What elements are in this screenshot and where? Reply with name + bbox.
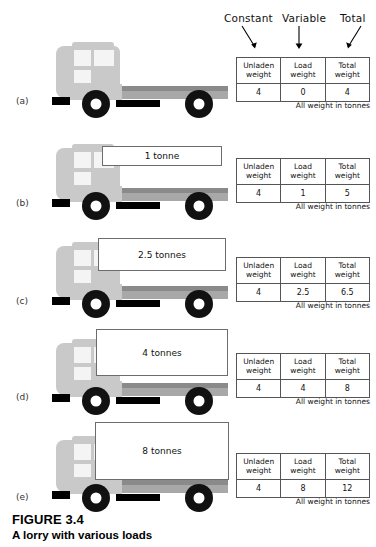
weights-table: Unladen weight Load weight Total weight … bbox=[236, 353, 370, 398]
header-load-line2: weight bbox=[290, 270, 315, 279]
load-label: 2.5 tonnes bbox=[138, 250, 186, 260]
annotation-variable: Variable bbox=[282, 12, 326, 24]
header-load-line2: weight bbox=[290, 466, 315, 475]
table-header-row: Unladen weight Load weight Total weight bbox=[237, 58, 370, 84]
table-row: 4 1 5 bbox=[237, 185, 370, 203]
load-label: 1 tonne bbox=[145, 151, 180, 161]
cell-unladen-weight: 4 bbox=[237, 480, 281, 498]
cell-unladen-weight: 4 bbox=[237, 284, 281, 302]
table-row: 4 2.5 6.5 bbox=[237, 284, 370, 302]
cell-total-weight: 6.5 bbox=[325, 284, 369, 302]
cell-unladen-weight: 4 bbox=[237, 84, 281, 102]
annotation-constant: Constant bbox=[224, 12, 273, 24]
table-header-row: Unladen weight Load weight Total weight bbox=[237, 354, 370, 380]
header-total-line2: weight bbox=[335, 70, 360, 79]
header-load-weight: Load weight bbox=[281, 454, 325, 480]
cell-total-weight: 8 bbox=[325, 380, 369, 398]
table-row: 4 0 4 bbox=[237, 84, 370, 102]
header-unladen-line2: weight bbox=[246, 171, 271, 180]
load-box: 1 tonne bbox=[102, 146, 222, 166]
row-label: (a) bbox=[16, 96, 29, 106]
table-header-row: Unladen weight Load weight Total weight bbox=[237, 159, 370, 185]
header-load-weight: Load weight bbox=[281, 159, 325, 185]
header-total-line2: weight bbox=[335, 171, 360, 180]
header-load-line2: weight bbox=[290, 171, 315, 180]
cell-load-weight: 0 bbox=[281, 84, 325, 102]
weights-table: Unladen weight Load weight Total weight … bbox=[236, 257, 370, 302]
row-label: (e) bbox=[16, 492, 29, 502]
cell-total-weight: 4 bbox=[325, 84, 369, 102]
header-total-line2: weight bbox=[335, 366, 360, 375]
cell-load-weight: 8 bbox=[281, 480, 325, 498]
cell-load-weight: 4 bbox=[281, 380, 325, 398]
header-total-weight: Total weight bbox=[325, 454, 369, 480]
annotation-total: Total bbox=[340, 12, 366, 24]
row-label: (d) bbox=[16, 392, 29, 402]
load-label: 8 tonnes bbox=[142, 446, 181, 456]
header-unladen-line2: weight bbox=[246, 466, 271, 475]
header-total-line2: weight bbox=[335, 270, 360, 279]
table-header-row: Unladen weight Load weight Total weight bbox=[237, 454, 370, 480]
table-note: All weight in tonnes bbox=[236, 397, 370, 406]
cell-unladen-weight: 4 bbox=[237, 185, 281, 203]
weights-table: Unladen weight Load weight Total weight … bbox=[236, 158, 370, 203]
row-label: (c) bbox=[16, 296, 28, 306]
header-load-weight: Load weight bbox=[281, 354, 325, 380]
weights-table: Unladen weight Load weight Total weight … bbox=[236, 57, 370, 102]
figure-caption: FIGURE 3.4 A lorry with various loads bbox=[12, 512, 152, 541]
table-row: 4 4 8 bbox=[237, 380, 370, 398]
lorry-illustration bbox=[44, 40, 234, 120]
row-label: (b) bbox=[16, 198, 29, 208]
header-unladen-line2: weight bbox=[246, 270, 271, 279]
header-unladen-weight: Unladen weight bbox=[237, 354, 281, 380]
header-unladen-weight: Unladen weight bbox=[237, 258, 281, 284]
header-unladen-weight: Unladen weight bbox=[237, 159, 281, 185]
header-total-weight: Total weight bbox=[325, 258, 369, 284]
cell-load-weight: 2.5 bbox=[281, 284, 325, 302]
header-unladen-line2: weight bbox=[246, 366, 271, 375]
cell-total-weight: 5 bbox=[325, 185, 369, 203]
header-load-line2: weight bbox=[290, 366, 315, 375]
header-unladen-line2: weight bbox=[246, 70, 271, 79]
header-unladen-weight: Unladen weight bbox=[237, 58, 281, 84]
load-box: 4 tonnes bbox=[96, 329, 228, 376]
header-load-weight: Load weight bbox=[281, 58, 325, 84]
cell-total-weight: 12 bbox=[325, 480, 369, 498]
cell-load-weight: 1 bbox=[281, 185, 325, 203]
table-column-annotations: Constant Variable Total bbox=[228, 4, 376, 52]
header-load-line2: weight bbox=[290, 70, 315, 79]
table-note: All weight in tonnes bbox=[236, 101, 370, 110]
table-row: 4 8 12 bbox=[237, 480, 370, 498]
header-total-weight: Total weight bbox=[325, 159, 369, 185]
header-total-weight: Total weight bbox=[325, 58, 369, 84]
header-load-weight: Load weight bbox=[281, 258, 325, 284]
table-note: All weight in tonnes bbox=[236, 202, 370, 211]
header-total-weight: Total weight bbox=[325, 354, 369, 380]
table-note: All weight in tonnes bbox=[236, 301, 370, 310]
header-unladen-weight: Unladen weight bbox=[237, 454, 281, 480]
weights-table: Unladen weight Load weight Total weight … bbox=[236, 453, 370, 498]
table-note: All weight in tonnes bbox=[236, 497, 370, 506]
table-header-row: Unladen weight Load weight Total weight bbox=[237, 258, 370, 284]
header-total-line2: weight bbox=[335, 466, 360, 475]
figure-title: FIGURE 3.4 bbox=[12, 512, 152, 527]
load-box: 8 tonnes bbox=[95, 422, 229, 480]
load-label: 4 tonnes bbox=[142, 348, 181, 358]
figure-subtitle: A lorry with various loads bbox=[12, 529, 152, 541]
cell-unladen-weight: 4 bbox=[237, 380, 281, 398]
load-box: 2.5 tonnes bbox=[98, 238, 226, 271]
